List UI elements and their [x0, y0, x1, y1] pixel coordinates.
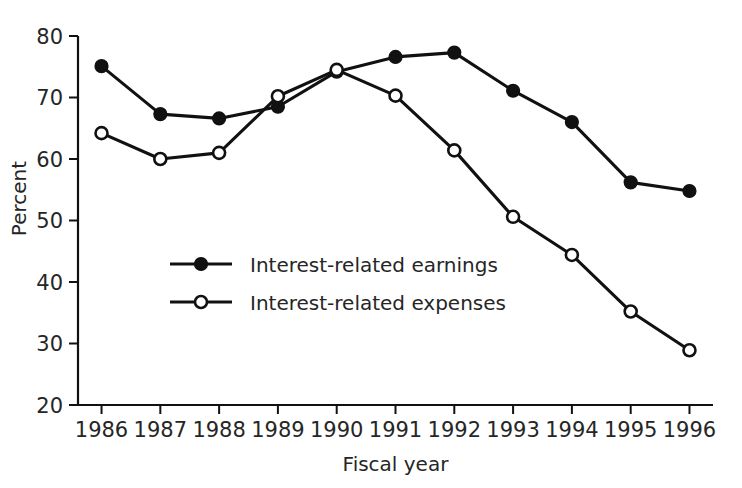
data-point-marker [154, 108, 167, 121]
legend-entry: Interest-related earnings [170, 253, 498, 277]
x-axis-tick-label: 1995 [604, 418, 657, 442]
data-point-marker [213, 147, 225, 159]
x-axis-tick-label: 1990 [310, 418, 363, 442]
data-point-marker [272, 90, 284, 102]
data-point-marker [624, 176, 637, 189]
legend-label: Interest-related expenses [250, 291, 506, 315]
x-axis-tick-label: 1991 [369, 418, 422, 442]
y-axis-tick-label: 80 [36, 25, 63, 49]
legend-label: Interest-related earnings [250, 253, 498, 277]
data-point-marker [683, 344, 695, 356]
data-point-marker [390, 90, 402, 102]
x-axis-title: Fiscal year [343, 452, 450, 476]
data-point-marker [507, 84, 520, 97]
data-point-marker [625, 306, 637, 318]
x-axis-tick-label: 1988 [192, 418, 245, 442]
x-axis-tick-label: 1993 [486, 418, 539, 442]
x-axis-tick-label: 1986 [75, 418, 128, 442]
data-point-marker [331, 64, 343, 76]
x-axis-tick-label: 1992 [428, 418, 481, 442]
series-line-1 [102, 53, 690, 191]
legend-marker-open-circle [195, 296, 207, 308]
y-axis-tick-label: 30 [36, 332, 63, 356]
x-axis-tick-label: 1989 [251, 418, 304, 442]
y-axis-tick-label: 70 [36, 86, 63, 110]
y-axis-tick-label: 60 [36, 148, 63, 172]
legend-entry: Interest-related expenses [170, 291, 506, 315]
data-point-marker [154, 153, 166, 165]
x-axis-tick-label: 1996 [663, 418, 716, 442]
legend-marker-filled-circle [195, 258, 208, 271]
y-axis-tick-label: 40 [36, 271, 63, 295]
data-point-marker [96, 127, 108, 139]
chart-figure: 2030405060708019861987198819891990199119… [0, 0, 742, 488]
data-point-marker [448, 144, 460, 156]
data-point-marker [683, 185, 696, 198]
y-axis-tick-label: 20 [36, 394, 63, 418]
data-point-marker [389, 51, 402, 64]
data-point-marker [213, 112, 226, 125]
line-chart: 2030405060708019861987198819891990199119… [0, 0, 742, 488]
data-point-marker [566, 249, 578, 261]
data-point-marker [507, 211, 519, 223]
data-point-marker [565, 116, 578, 129]
x-axis-tick-label: 1987 [134, 418, 187, 442]
x-axis-tick-label: 1994 [545, 418, 598, 442]
y-axis-title: Percent [7, 161, 31, 236]
data-point-marker [95, 60, 108, 73]
data-point-marker [448, 46, 461, 59]
y-axis-tick-label: 50 [36, 209, 63, 233]
